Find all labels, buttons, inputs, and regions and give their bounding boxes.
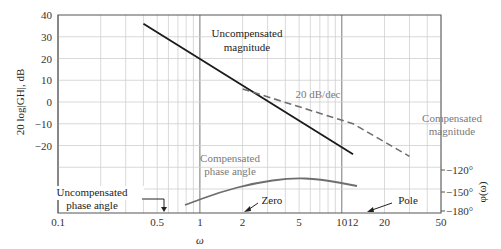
annotation-uncompensated-magnitude-1: Uncompensated xyxy=(212,27,283,39)
arrow-icon xyxy=(367,207,374,212)
x-axis-ticks: 0.10.512510122050 xyxy=(51,216,447,228)
annotation-compensated-magnitude-1: Compensated xyxy=(422,112,482,124)
series xyxy=(143,24,409,205)
x-tick-label: 20 xyxy=(379,216,391,228)
annotation-uncompensated-phase-2: phase angle xyxy=(66,199,118,211)
phase-tick-label: −180° xyxy=(446,205,473,217)
x-tick-label: 50 xyxy=(436,216,448,228)
y-tick-label: 0 xyxy=(47,96,53,108)
x-tick-label: 10 xyxy=(336,216,348,228)
phase-axis-ticks: −120°−150°−180° xyxy=(441,164,473,217)
y-axis-ticks: 403020100−10−20 xyxy=(35,9,53,152)
x-tick-label: 0.5 xyxy=(150,216,164,228)
x-tick-label: 2 xyxy=(240,216,246,228)
pole-leader xyxy=(372,203,392,210)
annotation-compensated-phase-1: Compensated xyxy=(200,152,260,164)
y-tick-label: 30 xyxy=(41,31,53,43)
annotation-zero: Zero xyxy=(262,194,283,206)
phase-axis-label: φ(ω) xyxy=(476,181,489,202)
uncompensated-phase-leader xyxy=(142,199,164,209)
annotation-compensated-phase-2: phase angle xyxy=(204,165,256,177)
x-tick-label: 1 xyxy=(197,216,203,228)
annotation-slope: 20 dB/dec xyxy=(296,88,341,100)
phase-tick-label: −120° xyxy=(446,164,473,176)
y-tick-label: −20 xyxy=(35,140,53,152)
arrow-down-icon xyxy=(161,207,167,212)
x-axis-label: ω xyxy=(196,234,204,246)
annotation-uncompensated-magnitude-2: magnitude xyxy=(224,41,271,53)
y-tick-label: 20 xyxy=(41,53,53,65)
y-axis-label: 20 log|GH|, dB xyxy=(14,69,26,135)
annotation-uncompensated-phase-1: Uncompensated xyxy=(57,186,128,198)
y-tick-label: −10 xyxy=(35,118,53,130)
annotation-pole: Pole xyxy=(398,194,418,206)
x-tick-label: 0.1 xyxy=(51,216,65,228)
y-tick-label: 40 xyxy=(41,9,53,21)
arrow-icon xyxy=(244,206,251,212)
annotation-compensated-magnitude-2: magnitude xyxy=(429,125,476,137)
x-tick-label: 12 xyxy=(348,216,359,228)
x-tick-label: 5 xyxy=(296,216,302,228)
bode-plot: 0.10.512510122050 403020100−10−20 −120°−… xyxy=(0,0,501,249)
y-tick-label: 10 xyxy=(41,74,53,86)
phase-tick-label: −150° xyxy=(446,186,473,198)
